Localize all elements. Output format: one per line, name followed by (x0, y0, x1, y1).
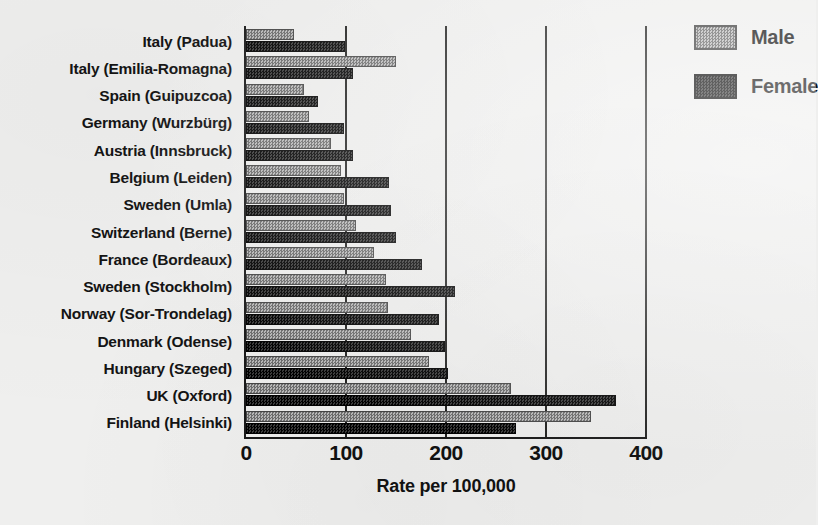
bar-group (246, 164, 646, 191)
bar-female (246, 368, 448, 379)
bar-female (246, 177, 389, 188)
bar-female (246, 341, 445, 352)
bar-female (246, 150, 353, 161)
category-label: Denmark (Odense) (97, 333, 232, 351)
category-label: France (Bordeaux) (98, 251, 232, 269)
x-tick-label: 200 (429, 441, 463, 465)
bar-female (246, 395, 616, 406)
x-axis-line (244, 437, 647, 439)
bar-female (246, 123, 344, 134)
legend-swatch-male-icon (694, 25, 737, 50)
bar-group (246, 219, 646, 246)
category-label: Italy (Emilia-Romagna) (69, 60, 232, 78)
category-axis: Italy (Padua)Italy (Emilia-Romagna)Spain… (0, 28, 240, 437)
bar-female (246, 286, 455, 297)
category-label: Sweden (Umla) (123, 196, 232, 214)
bar-male (246, 138, 331, 149)
bar-group (246, 110, 646, 137)
category-label: Norway (Sor-Trondelag) (61, 305, 232, 323)
bar-group (246, 83, 646, 110)
category-label: UK (Oxford) (146, 387, 232, 405)
x-tick-label: 300 (529, 441, 563, 465)
bar-female (246, 96, 318, 107)
bar-female (246, 41, 345, 52)
bar-group (246, 382, 646, 409)
legend-label-female: Female (751, 75, 818, 98)
bar-male (246, 356, 429, 367)
bar-male (246, 56, 396, 67)
bar-group (246, 137, 646, 164)
bar-group (246, 355, 646, 382)
bar-male (246, 302, 388, 313)
bar-group (246, 301, 646, 328)
bar-male (246, 193, 344, 204)
bar-female (246, 423, 516, 434)
bar-group (246, 328, 646, 355)
legend-item-female: Female (694, 73, 816, 100)
bar-female (246, 205, 391, 216)
bar-female (246, 259, 422, 270)
x-tick-label: 400 (629, 441, 663, 465)
bar-male (246, 165, 341, 176)
legend-label-male: Male (751, 26, 794, 49)
x-tick-label: 0 (240, 441, 251, 465)
bar-male (246, 329, 411, 340)
bar-female (246, 232, 396, 243)
category-label: Belgium (Leiden) (109, 169, 232, 187)
x-axis-tick-labels: 0100200300400 (246, 441, 666, 467)
category-label: Finland (Helsinki) (106, 414, 232, 432)
bar-group (246, 410, 646, 437)
category-label: Italy (Padua) (142, 33, 232, 51)
category-label: Germany (Wurzbürg) (82, 114, 232, 132)
category-label: Switzerland (Berne) (91, 224, 232, 242)
bar-female (246, 314, 439, 325)
plot-area (246, 28, 646, 437)
category-label: Spain (Guipuzcoa) (99, 87, 232, 105)
bar-group (246, 273, 646, 300)
bar-male (246, 111, 309, 122)
category-label: Austria (Innsbruck) (94, 142, 232, 160)
chart-legend: Male Female (694, 24, 816, 122)
bar-group (246, 28, 646, 55)
bar-male (246, 383, 511, 394)
category-label: Sweden (Stockholm) (83, 278, 232, 296)
bar-male (246, 220, 356, 231)
legend-item-male: Male (694, 24, 816, 51)
x-tick-label: 100 (329, 441, 363, 465)
bar-female (246, 68, 353, 79)
category-label: Hungary (Szeged) (103, 360, 232, 378)
bar-group (246, 55, 646, 82)
x-axis-title: Rate per 100,000 (246, 476, 646, 497)
bar-male (246, 247, 374, 258)
bar-male (246, 411, 591, 422)
bar-male (246, 274, 386, 285)
bar-group (246, 246, 646, 273)
legend-swatch-female-icon (694, 74, 737, 99)
bar-group (246, 192, 646, 219)
bar-male (246, 84, 304, 95)
bar-male (246, 29, 294, 40)
